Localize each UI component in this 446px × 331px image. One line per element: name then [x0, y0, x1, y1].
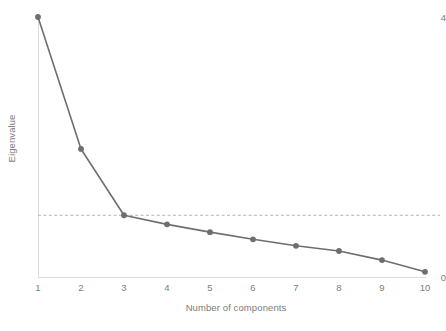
data-point-9: [379, 257, 385, 263]
data-point-7: [293, 243, 299, 249]
x-axis-title: Number of components: [38, 302, 434, 313]
scree-plot-chart: Eigenvalue 4 0 1 2 3 4 5 6 7 8 9 10 Numb…: [0, 0, 446, 331]
data-point-6: [250, 236, 256, 242]
eigenvalue-series-line: [38, 17, 425, 272]
data-point-4: [164, 221, 170, 227]
data-point-5: [207, 229, 213, 235]
data-point-3: [121, 212, 127, 218]
data-point-10: [422, 269, 428, 275]
plot-area: [0, 0, 446, 331]
data-point-1: [35, 14, 41, 20]
data-point-2: [78, 146, 84, 152]
data-point-8: [336, 248, 342, 254]
